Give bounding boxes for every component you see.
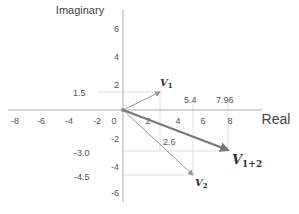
- y-tick-labels: 6 4 2 -2 -4 -6: [111, 24, 119, 198]
- svg-text:6: 6: [200, 116, 205, 126]
- origin-point: [121, 108, 125, 112]
- svg-text:6: 6: [114, 24, 119, 34]
- svg-text:-2: -2: [93, 116, 101, 126]
- annotation-7.96: 7.96: [216, 95, 234, 105]
- svg-text:4: 4: [114, 52, 119, 62]
- svg-text:0: 0: [111, 116, 116, 126]
- real-axis-title: Real: [262, 111, 291, 127]
- x-tick-labels: -8 -6 -4 -2 0 2 4 6 8: [11, 116, 233, 126]
- label-v2: V2: [195, 177, 208, 190]
- svg-text:-6: -6: [37, 116, 45, 126]
- annotation-2.6: 2.6: [163, 137, 176, 147]
- svg-text:-4: -4: [111, 162, 119, 172]
- label-v1-plus-2: V1+2: [232, 152, 262, 169]
- svg-text:-6: -6: [111, 188, 119, 198]
- svg-text:-2: -2: [111, 134, 119, 144]
- annotation-minus3: -3.0: [74, 148, 90, 158]
- vector-diagram: -8 -6 -4 -2 0 2 4 6 8 6 4 2 -2 -4 -6 1.5…: [0, 0, 299, 214]
- imaginary-axis-title: Imaginary: [56, 4, 105, 16]
- vector-v1: [123, 92, 160, 110]
- annotation-5.4: 5.4: [184, 95, 197, 105]
- annotation-minus4.5: -4.5: [74, 172, 90, 182]
- vector-v2: [123, 110, 193, 175]
- svg-text:2: 2: [114, 80, 119, 90]
- annotation-1.5: 1.5: [73, 88, 86, 98]
- label-v1: V1: [160, 77, 173, 90]
- svg-text:-4: -4: [65, 116, 73, 126]
- svg-text:4: 4: [175, 116, 180, 126]
- annotation-labels: 1.5 -3.0 -4.5 2.6 5.4 7.96: [73, 88, 234, 182]
- svg-text:-8: -8: [11, 116, 19, 126]
- svg-text:8: 8: [227, 116, 232, 126]
